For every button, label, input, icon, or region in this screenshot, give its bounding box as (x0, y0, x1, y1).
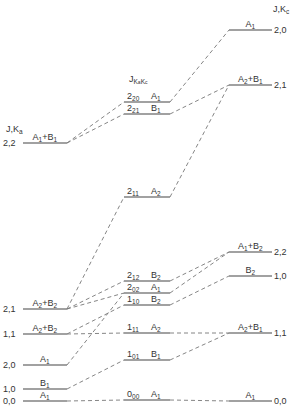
correlation-line (67, 197, 124, 309)
symmetry-label-middle: A1 (151, 389, 161, 402)
level-label-middle: 111 (127, 322, 139, 335)
correlation-line (67, 360, 124, 389)
left-header: J,Ka (6, 124, 23, 137)
correlation-line (170, 400, 229, 401)
symmetry-label-right: A1 (246, 19, 256, 32)
symmetry-label-right: A2+B1 (238, 322, 263, 335)
symmetry-label-right: B2 (246, 265, 256, 278)
correlation-line (67, 293, 124, 365)
level-label-right: 1,0 (274, 271, 287, 281)
level-label-right: 2,2 (274, 247, 287, 257)
symmetry-label-right: A1+B2 (238, 241, 263, 254)
level-label-left: 0,0 (3, 396, 16, 406)
correlation-line (67, 102, 124, 143)
symmetry-label-middle: A2 (151, 322, 161, 335)
correlation-line (170, 252, 229, 281)
level-label-left: 2,1 (3, 304, 16, 314)
right-header: J,Kc (273, 4, 289, 17)
level-label-middle: 221 (127, 103, 139, 116)
correlation-line (170, 30, 229, 102)
symmetry-label-left: A2+B2 (33, 298, 58, 311)
correlation-line (67, 400, 124, 401)
level-label-right: 1,1 (274, 328, 287, 338)
level-label-left: 2,0 (3, 360, 16, 370)
symmetry-label-left: A1 (40, 354, 50, 367)
correlation-line (170, 252, 229, 293)
symmetry-label-middle: B2 (151, 294, 161, 307)
level-label-middle: 211 (127, 186, 139, 199)
level-label-middle: 110 (127, 294, 139, 307)
diagram-lines (0, 0, 298, 410)
level-label-middle: 000 (127, 389, 139, 402)
symmetry-label-right: A2+B1 (238, 74, 263, 87)
symmetry-label-left: A1+B1 (33, 132, 58, 145)
correlation-line (170, 276, 229, 305)
level-label-right: 2,0 (274, 25, 287, 35)
correlation-line (170, 333, 229, 360)
correlation-line (170, 85, 229, 114)
symmetry-label-middle: B1 (151, 103, 161, 116)
symmetry-label-middle: A2 (151, 186, 161, 199)
level-label-right: 0,0 (274, 396, 287, 406)
level-label-left: 1,1 (3, 329, 16, 339)
correlation-line (170, 85, 229, 197)
correlation-diagram: J,Ka JKaKc J,Kc 2,2A1+B12,1A2+B21,1A2+B2… (0, 0, 298, 410)
middle-header: JKaKc (129, 74, 147, 87)
symmetry-label-left: A2+B2 (33, 323, 58, 336)
symmetry-label-left: A1 (40, 390, 50, 403)
symmetry-label-middle: B1 (151, 349, 161, 362)
level-label-middle: 101 (127, 349, 139, 362)
level-label-right: 2,1 (274, 80, 287, 90)
symmetry-label-right: A1 (246, 390, 256, 403)
correlation-line (67, 114, 124, 143)
level-label-left: 2,2 (3, 138, 16, 148)
level-label-left: 1,0 (3, 384, 16, 394)
correlation-line (67, 333, 124, 334)
